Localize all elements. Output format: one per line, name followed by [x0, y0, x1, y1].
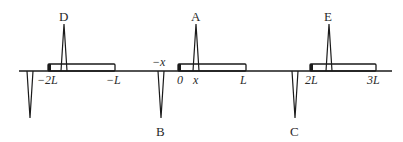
label-A: A — [191, 9, 201, 24]
label-E: E — [324, 9, 332, 24]
tick-2L: 2L — [305, 73, 318, 87]
rod-main — [178, 64, 246, 71]
label-D: D — [59, 9, 68, 24]
tick-zero: 0 — [177, 73, 183, 87]
rod-positive — [310, 64, 376, 71]
spike-B — [158, 71, 164, 118]
spike-C — [292, 71, 298, 118]
label-B: B — [156, 124, 165, 139]
tick-negL: −L — [106, 73, 121, 87]
tick-neg2L: −2L — [37, 73, 58, 87]
label-C: C — [290, 124, 299, 139]
tick-x: x — [192, 73, 199, 87]
rod-negative — [48, 64, 115, 71]
tick-L: L — [239, 73, 247, 87]
diagram-canvas: D A E B C −2L −L −x 0 x L 2L 3L — [0, 0, 403, 142]
spike-left-down — [27, 71, 33, 118]
tick-3L: 3L — [366, 73, 380, 87]
tick-negx: −x — [152, 55, 166, 69]
